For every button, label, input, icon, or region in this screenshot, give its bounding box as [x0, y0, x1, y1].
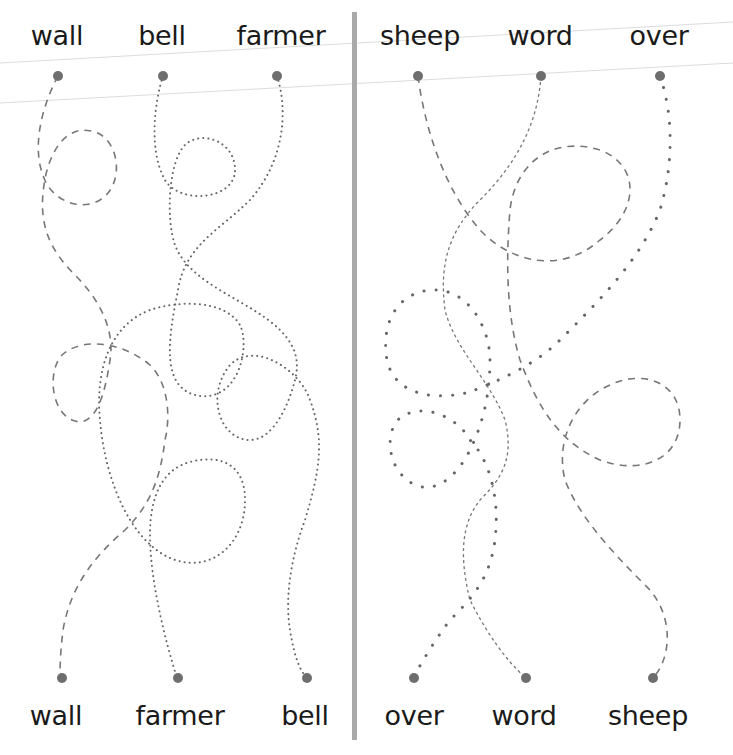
panel-divider: [352, 12, 357, 740]
dot-bottom-farmer[interactable]: [173, 673, 183, 683]
guide-line-bottom: [0, 63, 733, 103]
dot-top-farmer[interactable]: [272, 71, 282, 81]
top-word-sheep: sheep: [380, 22, 460, 49]
path-wall[interactable]: [38, 76, 167, 678]
dot-bottom-word[interactable]: [521, 673, 531, 683]
top-word-wall: wall: [31, 22, 83, 49]
guide-line-top: [0, 22, 733, 63]
path-sheep[interactable]: [418, 76, 680, 678]
dot-top-word[interactable]: [536, 71, 546, 81]
dot-bottom-bell[interactable]: [302, 673, 312, 683]
tracing-paths: [0, 0, 733, 755]
dot-bottom-wall[interactable]: [57, 673, 67, 683]
top-word-farmer: farmer: [237, 22, 326, 49]
dot-bottom-over[interactable]: [409, 673, 419, 683]
dot-top-sheep[interactable]: [413, 71, 423, 81]
top-word-bell: bell: [138, 22, 186, 49]
bottom-word-farmer: farmer: [136, 702, 225, 729]
path-word[interactable]: [443, 76, 541, 678]
dot-top-over[interactable]: [655, 71, 665, 81]
dot-top-wall[interactable]: [53, 71, 63, 81]
bottom-word-wall: wall: [30, 702, 82, 729]
bottom-word-bell: bell: [281, 702, 329, 729]
bottom-word-over: over: [384, 702, 443, 729]
bottom-word-word: word: [491, 702, 556, 729]
dot-bottom-sheep[interactable]: [648, 673, 658, 683]
path-bell[interactable]: [155, 76, 320, 678]
bottom-word-sheep: sheep: [608, 702, 688, 729]
dot-top-bell[interactable]: [158, 71, 168, 81]
top-word-over: over: [629, 22, 688, 49]
endpoint-dots: [53, 71, 665, 683]
path-farmer[interactable]: [99, 76, 283, 678]
top-word-word: word: [507, 22, 572, 49]
